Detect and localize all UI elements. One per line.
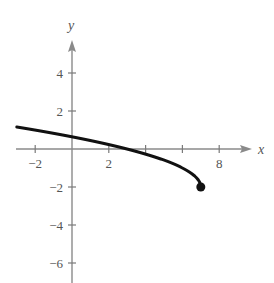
x-tick-label: 8	[216, 156, 223, 171]
y-tick-label: −6	[49, 256, 63, 271]
ticks	[35, 73, 219, 263]
y-tick-label: 2	[57, 104, 64, 119]
x-tick-label: 2	[106, 156, 113, 171]
x-tick-label: −2	[28, 156, 42, 171]
axes: xy	[16, 18, 265, 283]
endpoint-dot	[196, 183, 205, 192]
y-tick-label: −4	[49, 218, 63, 233]
y-tick-label: −2	[49, 180, 63, 195]
tick-labels: −22842−2−4−6	[28, 66, 222, 271]
function-graph: xy −22842−2−4−6	[0, 0, 274, 283]
x-axis-label: x	[257, 142, 265, 157]
y-tick-label: 4	[57, 66, 64, 81]
y-axis-label: y	[66, 18, 75, 33]
